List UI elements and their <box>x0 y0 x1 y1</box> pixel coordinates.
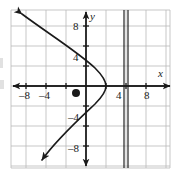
y-tick-label-4: 4 <box>73 52 79 63</box>
y-axis-label: y <box>90 11 95 22</box>
x-tick-label-8: 8 <box>144 90 150 101</box>
y-axis <box>83 12 89 166</box>
x-tick-label-4: 4 <box>116 90 122 101</box>
graph-figure: –8 –4 4 8 8 4 –4 –8 x y <box>0 0 178 175</box>
coordinate-plane <box>0 0 178 175</box>
x-tick-label-neg8: –8 <box>19 90 30 101</box>
parabola-curve <box>22 14 106 160</box>
y-tick-label-neg8: –8 <box>68 143 79 154</box>
x-axis-label: x <box>158 68 163 79</box>
y-tick-label-neg4: –4 <box>68 112 79 123</box>
y-tick-label-8: 8 <box>73 21 79 32</box>
x-tick-label-neg4: –4 <box>39 90 50 101</box>
focus-point <box>72 89 80 97</box>
